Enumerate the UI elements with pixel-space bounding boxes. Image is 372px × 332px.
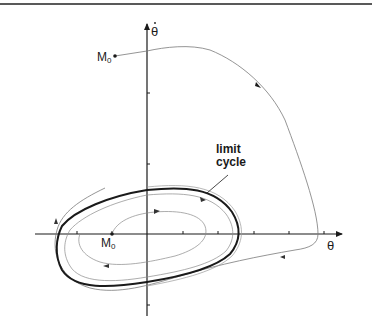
outer-start-point: M 0 [97,50,117,65]
x-axis [35,231,342,234]
trajectory-arrow [200,197,206,202]
y-axis-label: θ [151,22,158,39]
limit-cycle [57,188,239,286]
trajectory-arrow [103,264,109,268]
y-axis [147,24,150,316]
svg-text:0: 0 [111,242,116,251]
svg-text:M: M [101,236,111,250]
limit-cycle-label-line1: limit [216,142,241,156]
svg-text:θ: θ [151,24,158,39]
phase-portrait: θ θ limit cycle M 0 M 0 [0,0,372,332]
trajectory-arrow [280,255,285,259]
x-axis-label: θ [327,238,334,253]
trajectory-arrow [255,82,261,88]
limit-cycle-leader [207,175,228,193]
inner-start-point: M 0 [101,232,116,251]
trajectory-arrow [54,218,58,224]
inner-trajectory [79,212,206,265]
outer-trajectory [55,47,318,291]
svg-text:0: 0 [107,56,112,65]
limit-cycle-label-line2: cycle [216,155,246,169]
svg-text:M: M [97,50,107,64]
